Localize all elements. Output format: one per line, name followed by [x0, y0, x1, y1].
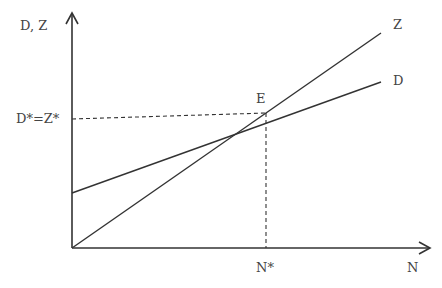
equilibrium-point-label: E [256, 91, 266, 106]
curve-label-z: Z [393, 17, 402, 32]
diagram-canvas: D, Z D*=Z* E Z D N* N [0, 0, 442, 288]
supply-line-z [72, 33, 381, 248]
curve-label-d: D [393, 73, 403, 88]
keynesian-cross-diagram: D, Z D*=Z* E Z D N* N [0, 0, 442, 288]
demand-line-d [72, 82, 381, 193]
x-axis-label: N [407, 260, 418, 275]
y-axis [66, 13, 78, 248]
equilibrium-y-label: D*=Z* [16, 111, 60, 126]
equilibrium-x-label: N* [256, 260, 274, 275]
y-axis-label: D, Z [20, 18, 47, 33]
x-axis [72, 242, 430, 254]
equilibrium-horizontal-guide [72, 113, 266, 119]
